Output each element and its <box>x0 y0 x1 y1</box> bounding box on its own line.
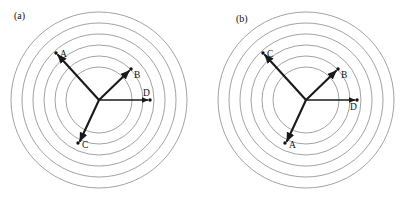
panel-caption-b: (b) <box>236 13 248 25</box>
node-label-c-a: C <box>82 140 88 150</box>
arm-to-c-a <box>80 100 99 141</box>
node-dot-a-b <box>283 141 286 144</box>
node-b-b: B <box>336 67 347 80</box>
node-dot-a-a <box>54 51 57 54</box>
arm-group-a <box>58 55 148 141</box>
panel-b: CBAD(b) <box>218 12 394 188</box>
node-dot-d-a <box>148 98 151 101</box>
node-dot-c-a <box>76 141 79 144</box>
node-label-a-b: A <box>289 140 296 150</box>
node-a-b: A <box>283 140 296 150</box>
node-dot-b-a <box>129 67 132 70</box>
panel-caption-a: (a) <box>14 10 25 22</box>
arm-to-b-b <box>306 71 336 100</box>
node-a-a: A <box>54 49 67 59</box>
concentric-ring-diagram: ABCD(a)CBAD(b) <box>0 0 409 200</box>
node-dot-c-b <box>261 51 264 54</box>
arm-to-c-b <box>265 55 306 100</box>
arm-to-b-a <box>99 71 129 100</box>
panel-a: ABCD(a) <box>11 10 187 188</box>
node-label-d-b: D <box>350 102 357 112</box>
node-label-a-a: A <box>60 49 67 59</box>
node-dot-b-b <box>336 67 339 70</box>
node-label-c-b: C <box>267 49 273 59</box>
arm-to-a-a <box>58 55 99 100</box>
node-c-a: C <box>76 140 88 150</box>
node-c-b: C <box>261 49 273 59</box>
node-b-a: B <box>129 67 140 80</box>
arm-to-a-b <box>287 100 306 141</box>
node-label-b-b: B <box>341 70 347 80</box>
panels-layer: ABCD(a)CBAD(b) <box>11 10 394 188</box>
arm-group-b <box>265 55 355 141</box>
node-label-b-a: B <box>134 70 140 80</box>
node-label-d-a: D <box>143 88 150 98</box>
